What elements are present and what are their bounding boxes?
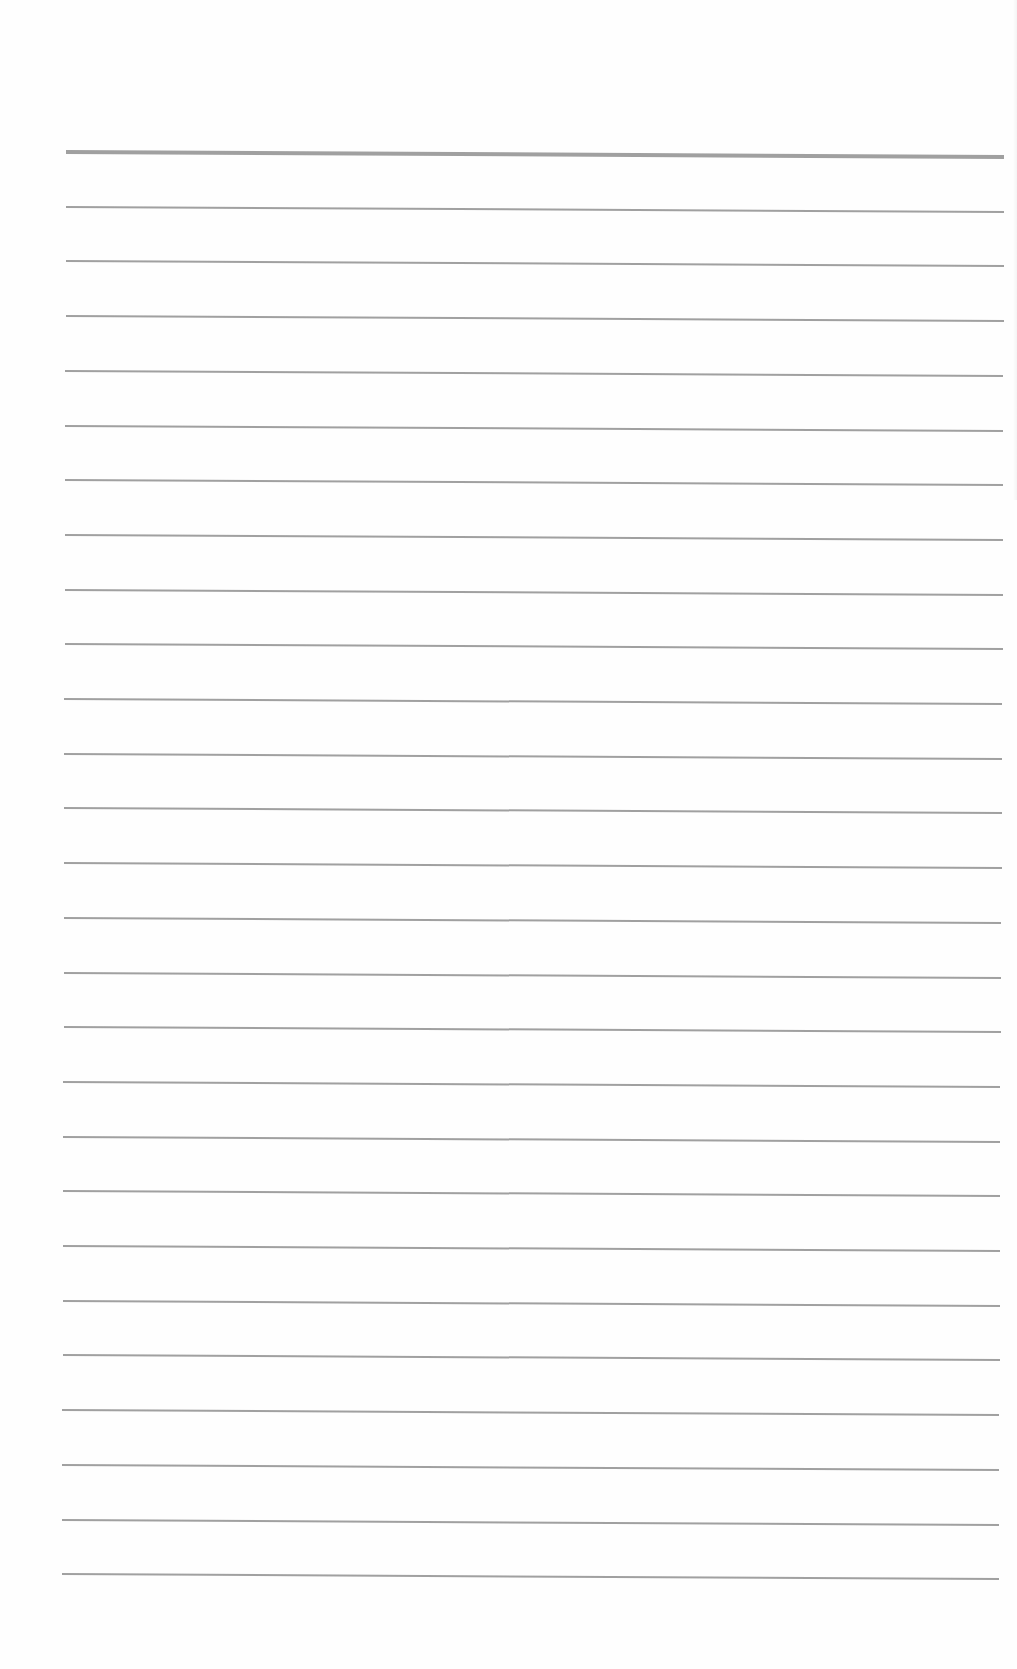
rule-line	[65, 643, 1003, 650]
rule-line	[63, 1300, 1000, 1307]
rule-line	[66, 260, 1004, 267]
rule-line	[62, 1573, 999, 1580]
header-rule-line	[66, 150, 1004, 159]
rule-line	[63, 1136, 1000, 1143]
rule-line	[64, 862, 1001, 869]
rule-line	[64, 917, 1001, 924]
rule-line	[63, 1245, 1000, 1252]
rule-line	[66, 206, 1004, 213]
rule-line	[65, 425, 1003, 432]
rule-line	[63, 1354, 1000, 1361]
rule-line	[66, 315, 1004, 322]
rule-line	[64, 753, 1002, 760]
rule-line	[64, 807, 1002, 814]
ruled-lines	[0, 0, 1017, 1669]
rule-line	[62, 1464, 999, 1471]
lined-paper-page	[0, 0, 1017, 1669]
rule-line	[62, 1519, 999, 1526]
rule-line	[63, 1190, 1000, 1197]
rule-line	[65, 479, 1003, 486]
rule-line	[65, 534, 1003, 541]
rule-line	[64, 972, 1001, 979]
rule-line	[62, 1409, 999, 1416]
rule-line	[64, 1026, 1001, 1033]
rule-line	[63, 1081, 1000, 1088]
rule-line	[65, 589, 1003, 596]
rule-line	[64, 698, 1002, 705]
rule-line	[65, 370, 1003, 377]
